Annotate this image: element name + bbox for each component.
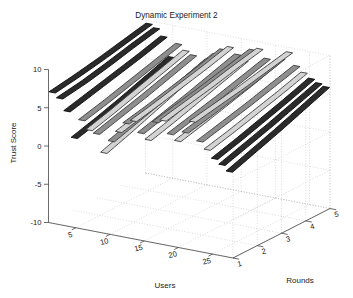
axis-label-users: Users <box>155 281 176 290</box>
ribbon-25 <box>226 86 329 172</box>
tick-label-trust-10: 10 <box>33 65 41 74</box>
axis-label-trust-score: Trust Score <box>9 122 18 164</box>
ribbon-3d-plot: 51015202512345-10-50510Dynamic Experimen… <box>0 0 353 298</box>
tick-label-users-15: 15 <box>133 243 143 254</box>
grid-floor-user <box>178 198 275 248</box>
tick-label-users-20: 20 <box>168 249 178 260</box>
tick-label-rounds-1: 1 <box>237 259 243 269</box>
axis-label-rounds: Rounds <box>286 276 314 285</box>
tick-label-rounds-4: 4 <box>309 222 315 232</box>
axis-users-line <box>49 223 234 259</box>
data-ribbons <box>49 23 330 172</box>
tick-mark-users <box>72 228 76 230</box>
tick-label-trust-5: 5 <box>37 104 41 113</box>
plot-title: Dynamic Experiment 2 <box>135 11 218 20</box>
tick-label-trust-0: 0 <box>37 142 41 151</box>
tick-label-rounds-3: 3 <box>285 234 291 244</box>
grid-wall-left-z <box>146 173 331 209</box>
tick-label-rounds-5: 5 <box>334 209 340 219</box>
tick-label-users-10: 10 <box>99 236 109 247</box>
tick-label-users-5: 5 <box>67 230 73 240</box>
tick-label-rounds-2: 2 <box>261 247 267 257</box>
tick-label-trust--10: -10 <box>31 218 42 227</box>
tick-label-users-25: 25 <box>202 256 212 267</box>
tick-label-trust--5: -5 <box>35 180 42 189</box>
figure-canvas: 51015202512345-10-50510Dynamic Experimen… <box>0 0 353 298</box>
